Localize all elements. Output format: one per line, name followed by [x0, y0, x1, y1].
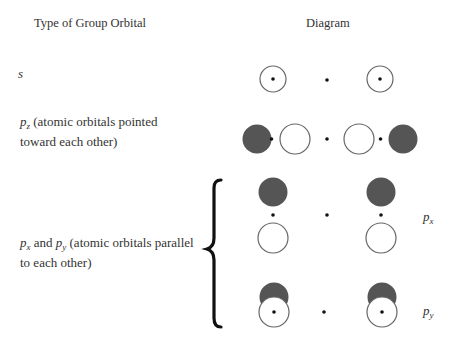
center-dot — [322, 310, 326, 314]
px-right-open-lobe — [366, 223, 396, 253]
nucleus-dot — [379, 137, 383, 141]
pz-left-shaded-lobe — [243, 125, 272, 154]
py-group-orbital — [259, 283, 397, 328]
nucleus-dot — [378, 77, 382, 81]
pz-group-orbital — [243, 124, 418, 154]
px-right-shaded-lobe — [367, 178, 396, 207]
orbital-diagram — [0, 0, 458, 348]
px-left-shaded-lobe — [259, 178, 288, 207]
nucleus-dot — [272, 310, 276, 314]
s-group-orbital — [260, 66, 393, 92]
pz-left-open-lobe — [280, 124, 310, 154]
nucleus-dot — [380, 310, 384, 314]
px-left-open-lobe — [258, 223, 288, 253]
px-group-orbital — [258, 178, 396, 254]
center-dot — [325, 213, 329, 217]
pz-right-open-lobe — [344, 124, 374, 154]
nucleus-dot — [271, 77, 275, 81]
center-dot — [325, 137, 329, 141]
pz-right-shaded-lobe — [389, 125, 418, 154]
nucleus-dot — [379, 213, 383, 217]
curly-brace-icon — [207, 180, 221, 327]
center-dot — [325, 78, 329, 82]
nucleus-dot — [270, 137, 274, 141]
nucleus-dot — [271, 213, 275, 217]
